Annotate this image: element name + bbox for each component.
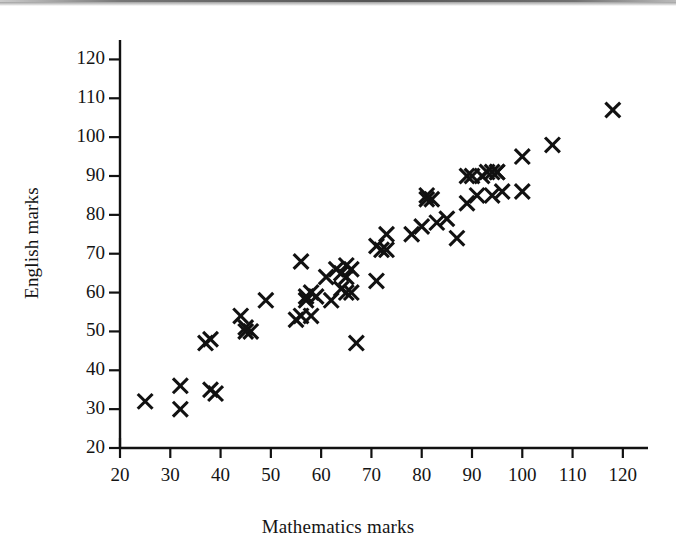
data-point-marker — [605, 103, 620, 118]
data-point-marker — [545, 138, 560, 153]
x-axis-title: Mathematics marks — [0, 516, 676, 538]
data-point-marker — [515, 184, 530, 199]
data-point-marker — [349, 336, 364, 351]
data-point-marker — [450, 231, 465, 246]
data-point-marker — [203, 332, 218, 347]
scatter-chart-figure: English marks Mathematics marks 20304050… — [0, 0, 676, 560]
data-point-marker — [379, 227, 394, 242]
data-point-marker — [173, 402, 188, 417]
y-axis-tick-label: 40 — [45, 358, 105, 380]
y-axis-tick-label: 80 — [45, 203, 105, 225]
data-point-marker — [460, 196, 475, 211]
y-axis-tick-label: 100 — [45, 125, 105, 147]
data-point-marker — [294, 254, 309, 269]
data-point-marker — [515, 149, 530, 164]
y-axis-tick-label: 60 — [45, 281, 105, 303]
data-point-marker — [173, 378, 188, 393]
data-point-marker — [208, 386, 223, 401]
y-axis-tick-label: 20 — [45, 436, 105, 458]
y-axis-tick-label: 30 — [45, 397, 105, 419]
data-point-marker — [404, 227, 419, 242]
data-point-marker — [414, 219, 429, 234]
data-point-marker — [369, 274, 384, 289]
y-axis-ticks — [109, 59, 120, 448]
y-axis-tick-label: 110 — [45, 86, 105, 108]
y-axis-tick-label: 120 — [45, 47, 105, 69]
data-point-marker — [470, 188, 485, 203]
data-point-markers — [138, 103, 620, 417]
data-point-marker — [258, 293, 273, 308]
y-axis-title: English marks — [21, 133, 43, 353]
data-point-marker — [304, 308, 319, 323]
x-axis-tick-label: 120 — [593, 464, 653, 486]
data-point-marker — [138, 394, 153, 409]
y-axis-tick-label: 50 — [45, 319, 105, 341]
y-axis-tick-label: 90 — [45, 164, 105, 186]
axes — [120, 40, 648, 448]
y-axis-tick-label: 70 — [45, 242, 105, 264]
data-point-marker — [319, 270, 334, 285]
